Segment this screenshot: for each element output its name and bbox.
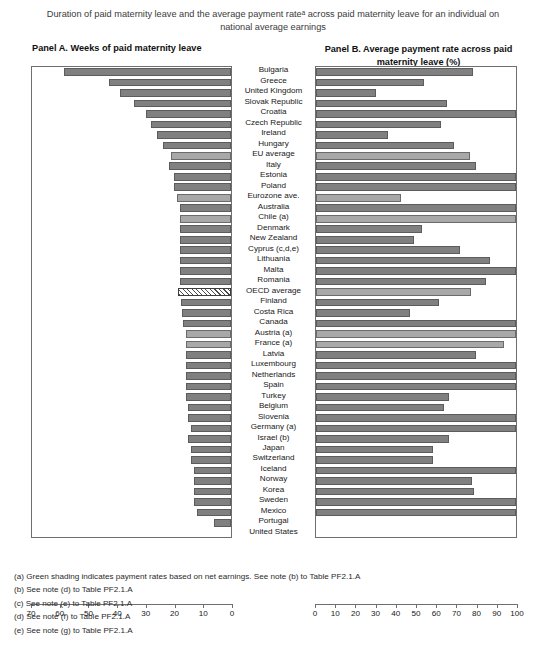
bar bbox=[316, 267, 516, 275]
bar bbox=[177, 194, 231, 202]
panel-b-bar-row bbox=[316, 151, 516, 161]
bar bbox=[316, 425, 516, 433]
panel-a-bar-row bbox=[32, 518, 231, 528]
panel-a-bar-row bbox=[32, 476, 231, 486]
bar bbox=[316, 372, 516, 380]
panel-a-bar-row bbox=[32, 224, 231, 234]
bar bbox=[316, 498, 516, 506]
panel-a-bar-row bbox=[32, 413, 231, 423]
category-label: Hungary bbox=[232, 139, 315, 149]
panel-b-bar-row bbox=[316, 172, 516, 182]
panel-a-bars bbox=[32, 67, 231, 537]
panel-b-bar-row bbox=[316, 140, 516, 150]
panel-a-bar-row bbox=[32, 497, 231, 507]
bar bbox=[197, 509, 231, 517]
footnote: (d) See note (f) to Table PF2.1.A bbox=[14, 610, 534, 623]
bar bbox=[214, 519, 231, 527]
bar bbox=[316, 236, 414, 244]
category-label: Norway bbox=[232, 474, 315, 484]
panel-b-bar-row bbox=[316, 67, 516, 77]
panel-b-bar-row bbox=[316, 476, 516, 486]
category-label: Ireland bbox=[232, 128, 315, 138]
bar bbox=[109, 79, 231, 87]
bar bbox=[316, 404, 444, 412]
bar bbox=[194, 477, 231, 485]
panel-a-bar-row bbox=[32, 109, 231, 119]
category-label: Lithuania bbox=[232, 254, 315, 264]
panel-b-bar-row bbox=[316, 298, 516, 308]
category-label: Portugal bbox=[232, 516, 315, 526]
category-label: France (a) bbox=[232, 338, 315, 348]
panel-a-bar-row bbox=[32, 88, 231, 98]
panel-a-bar-row bbox=[32, 140, 231, 150]
panel-b-bar-row bbox=[316, 256, 516, 266]
panel-a-bar-row bbox=[32, 119, 231, 129]
panel-a-bar-row bbox=[32, 182, 231, 192]
bar bbox=[180, 225, 231, 233]
panel-a-bar-row bbox=[32, 130, 231, 140]
category-label: Luxembourg bbox=[232, 359, 315, 369]
panel-b-bar-row bbox=[316, 182, 516, 192]
panel-b-bar-row bbox=[316, 214, 516, 224]
panel-b-bar-row bbox=[316, 245, 516, 255]
category-axis-labels: BulgariaGreeceUnited KingdomSlovak Repub… bbox=[232, 66, 315, 538]
panel-b-bar-row bbox=[316, 319, 516, 329]
category-label: Belgium bbox=[232, 401, 315, 411]
category-label: Switzerland bbox=[232, 453, 315, 463]
category-label: Romania bbox=[232, 275, 315, 285]
panel-a-bar-row bbox=[32, 361, 231, 371]
bar bbox=[316, 446, 433, 454]
panel-b-bars bbox=[316, 67, 516, 537]
bar bbox=[316, 100, 447, 108]
bar bbox=[180, 215, 231, 223]
bar bbox=[316, 393, 449, 401]
panel-b-bar-row bbox=[316, 434, 516, 444]
panel-b-bar-row bbox=[316, 487, 516, 497]
panel-a-heading: Panel A. Weeks of paid maternity leave bbox=[32, 43, 202, 53]
panel-a-bar-row bbox=[32, 98, 231, 108]
panel-b-bar-row bbox=[316, 277, 516, 287]
panel-b-bar-row bbox=[316, 529, 516, 539]
panel-a-bar-row bbox=[32, 172, 231, 182]
panel-a-bar-row bbox=[32, 235, 231, 245]
panel-a-bar-row bbox=[32, 371, 231, 381]
bar bbox=[316, 79, 424, 87]
bar bbox=[316, 362, 516, 370]
panel-a-bar-row bbox=[32, 350, 231, 360]
panel-a-bar-row bbox=[32, 203, 231, 213]
bar bbox=[186, 362, 231, 370]
plot-region: BulgariaGreeceUnited KingdomSlovak Repub… bbox=[0, 66, 546, 538]
bar bbox=[171, 152, 231, 160]
panel-b-bar-row bbox=[316, 203, 516, 213]
bar bbox=[186, 393, 231, 401]
panel-a-plot-area bbox=[31, 66, 232, 538]
category-label: Sweden bbox=[232, 495, 315, 505]
category-label: Latvia bbox=[232, 349, 315, 359]
panel-a-bar-row bbox=[32, 529, 231, 539]
bar bbox=[316, 488, 474, 496]
bar bbox=[174, 173, 231, 181]
bar bbox=[316, 142, 454, 150]
bar bbox=[316, 194, 401, 202]
panel-a-bar-row bbox=[32, 308, 231, 318]
panel-a-bar-row bbox=[32, 151, 231, 161]
category-label: United Kingdom bbox=[232, 86, 315, 96]
bar bbox=[316, 509, 516, 517]
category-label: United States bbox=[232, 527, 315, 537]
bar bbox=[186, 341, 231, 349]
bar bbox=[316, 173, 516, 181]
bar bbox=[146, 110, 231, 118]
footnote: (e) See note (g) to Table PF2.1.A bbox=[14, 624, 534, 637]
category-label: Australia bbox=[232, 202, 315, 212]
panel-a-bar-row bbox=[32, 434, 231, 444]
bar bbox=[180, 236, 231, 244]
panel-a-bar-row bbox=[32, 445, 231, 455]
panel-a-bar-row bbox=[32, 466, 231, 476]
panel-b-bar-row bbox=[316, 130, 516, 140]
bar bbox=[316, 330, 516, 338]
bar bbox=[316, 257, 490, 265]
bar bbox=[316, 278, 486, 286]
panel-a-bar-row bbox=[32, 298, 231, 308]
bar bbox=[181, 299, 231, 307]
bar bbox=[316, 204, 516, 212]
